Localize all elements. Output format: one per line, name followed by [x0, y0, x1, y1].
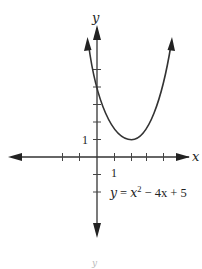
- curve-right-arrow-icon: [168, 37, 176, 51]
- y-axis-up-arrow-icon: [93, 25, 101, 40]
- x-axis-label: x: [192, 149, 200, 164]
- x-axis-left-arrow-icon: [8, 153, 22, 161]
- x-tick-label-1: 1: [111, 166, 117, 180]
- x-axis-right-arrow-icon: [176, 153, 190, 161]
- curve-left-arrow-icon: [84, 37, 92, 51]
- equation-label: y=x2 − 4x + 5: [109, 184, 187, 200]
- y-axis-down-arrow-icon: [93, 223, 101, 238]
- artifact-text: y: [91, 258, 98, 268]
- y-tick-label-1: 1: [82, 133, 88, 147]
- parabola-curve: [89, 45, 171, 140]
- parabola-graph: y x 1 1 y=x2 − 4x + 5 y: [0, 0, 202, 269]
- y-axis-label: y: [91, 10, 100, 25]
